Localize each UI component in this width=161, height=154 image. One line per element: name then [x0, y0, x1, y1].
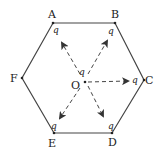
point-b [114, 22, 117, 25]
point-o [84, 81, 87, 84]
arrow-o-to-c [88, 81, 128, 82]
label-o: O [71, 79, 80, 92]
arrow-o-to-b [88, 41, 107, 74]
charge-d: q [108, 121, 114, 131]
arrow-o-to-d [88, 86, 103, 116]
label-e: E [48, 137, 56, 150]
point-e [53, 132, 56, 135]
label-b: B [111, 8, 119, 21]
charge-a: q [53, 25, 59, 35]
label-a: A [47, 8, 57, 21]
charge-e: q [51, 121, 57, 131]
point-f [21, 77, 24, 80]
label-f: F [10, 72, 18, 85]
hexagon-diagram: A B C D E F O q q q q q q [0, 0, 161, 154]
charge-b: q [108, 26, 114, 36]
arrow-o-to-a [62, 43, 80, 74]
hexagon-outline [22, 23, 144, 133]
label-c: C [145, 74, 153, 87]
arrow-o-to-e [60, 88, 80, 118]
vertex-points [21, 22, 146, 135]
charge-c: q [132, 75, 138, 85]
label-d: D [108, 136, 117, 149]
point-d [111, 132, 114, 135]
charge-o: q [79, 67, 85, 77]
point-a [52, 22, 55, 25]
